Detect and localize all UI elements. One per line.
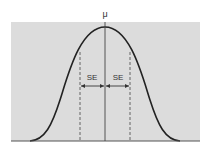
plot-background bbox=[11, 22, 200, 141]
se-left-label: SE bbox=[87, 73, 98, 82]
normal-distribution-diagram: μ SE SE bbox=[0, 0, 210, 150]
mean-label: μ bbox=[102, 9, 107, 19]
se-right-label: SE bbox=[113, 73, 124, 82]
